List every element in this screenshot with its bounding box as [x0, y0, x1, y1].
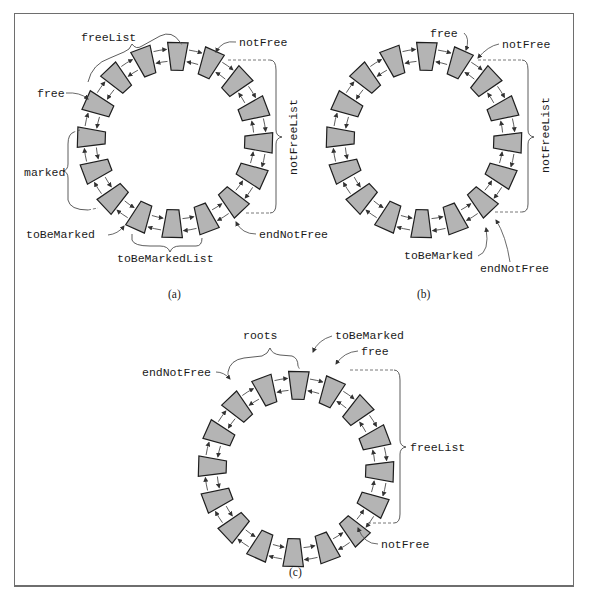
link-arrow — [405, 61, 416, 63]
link-arrow — [183, 217, 194, 219]
link-arrow — [262, 154, 265, 167]
label-toBeMarkedList: toBeMarkedList — [117, 252, 214, 265]
link-arrow — [304, 546, 315, 548]
link-arrow — [249, 399, 259, 405]
link-arrow — [216, 73, 225, 80]
heap-block — [126, 201, 152, 233]
heap-block — [82, 91, 114, 117]
link-arrow — [117, 210, 128, 218]
label-notFree: notFree — [502, 38, 550, 51]
link-arrow — [128, 70, 138, 76]
heap-block — [346, 184, 377, 215]
label-endNotFree: endNotFree — [142, 366, 211, 379]
caption-c: (c) — [289, 566, 302, 579]
link-arrow — [242, 389, 253, 396]
link-arrow — [189, 50, 202, 53]
link-arrow — [263, 119, 265, 132]
link-arrow — [334, 113, 337, 126]
heap-block — [97, 184, 128, 215]
link-arrow — [222, 62, 233, 70]
link-arrow — [245, 187, 253, 198]
label-toBeMarked: toBeMarked — [26, 228, 95, 241]
link-arrow — [366, 210, 377, 218]
link-arrow — [465, 73, 474, 80]
heap-block — [245, 133, 273, 154]
heap-block — [289, 371, 310, 399]
link-arrow — [366, 516, 374, 527]
label-toBeMarked: toBeMarked — [404, 249, 473, 262]
heap-block — [366, 462, 394, 483]
link-arrow — [252, 121, 254, 132]
link-arrow — [97, 82, 105, 93]
link-arrow — [96, 148, 98, 159]
link-arrow — [500, 152, 503, 163]
link-arrow — [310, 379, 323, 382]
link-arrow — [236, 181, 243, 190]
link-arrow — [512, 119, 514, 132]
panel-c-annotations: roots toBeMarked free endNotFree freeLis… — [142, 329, 465, 579]
heap-block — [198, 456, 226, 477]
link-arrow — [218, 214, 229, 221]
heap-block — [447, 47, 473, 79]
label-notFreeList: notFreeList — [287, 99, 300, 175]
link-arrow — [218, 411, 226, 422]
link-arrow — [121, 60, 132, 67]
label-endNotFree: endNotFree — [480, 262, 549, 275]
link-arrow — [432, 217, 443, 219]
link-arrow — [346, 82, 354, 93]
label-free: free — [361, 345, 389, 358]
link-arrow — [501, 121, 503, 132]
link-arrow — [433, 228, 446, 230]
link-arrow — [383, 483, 386, 496]
link-arrow — [206, 442, 209, 455]
link-arrow — [187, 62, 198, 65]
heap-block — [203, 420, 235, 446]
link-arrow — [97, 117, 100, 128]
link-arrow — [249, 86, 256, 97]
link-arrow — [461, 204, 471, 210]
link-arrow — [218, 446, 221, 457]
link-arrow — [305, 557, 318, 559]
link-arrow — [275, 378, 288, 380]
label-freeList: freeList — [410, 441, 465, 454]
link-arrow — [372, 481, 375, 492]
caption-b: (b) — [417, 288, 431, 301]
heap-block — [101, 62, 132, 93]
heap-block — [219, 187, 250, 218]
link-arrow — [354, 177, 360, 187]
ring-panel-a — [77, 42, 272, 237]
heap-block — [236, 163, 268, 189]
link-arrow — [485, 181, 492, 190]
label-endNotFree: endNotFree — [259, 228, 328, 241]
link-arrow — [217, 477, 219, 488]
heap-block — [198, 47, 224, 79]
link-arrow — [343, 391, 354, 399]
link-arrow — [339, 543, 350, 550]
link-arrow — [333, 533, 343, 539]
heap-block — [411, 210, 432, 238]
label-notFree: notFree — [239, 36, 287, 49]
link-arrow — [467, 214, 478, 221]
link-arrow — [360, 422, 366, 432]
panel-a-annotations: freeList notFree free notFreeList marked… — [24, 31, 328, 301]
heap-block — [343, 395, 374, 426]
heap-block — [417, 42, 438, 70]
link-arrow — [471, 62, 482, 70]
link-arrow — [436, 62, 447, 65]
link-arrow — [277, 390, 288, 392]
link-arrow — [377, 70, 387, 76]
link-arrow — [357, 510, 364, 519]
heap-block — [283, 539, 304, 567]
link-arrow — [494, 187, 502, 198]
link-arrow — [401, 216, 412, 219]
link-arrow — [370, 60, 381, 67]
link-arrow — [105, 177, 111, 187]
link-arrow — [246, 530, 255, 537]
caption-a: (a) — [168, 288, 181, 301]
link-arrow — [152, 216, 163, 219]
link-arrow — [154, 49, 167, 51]
link-arrow — [337, 402, 346, 409]
heap-block — [471, 66, 502, 97]
link-arrow — [85, 113, 88, 126]
heap-block — [331, 91, 363, 117]
